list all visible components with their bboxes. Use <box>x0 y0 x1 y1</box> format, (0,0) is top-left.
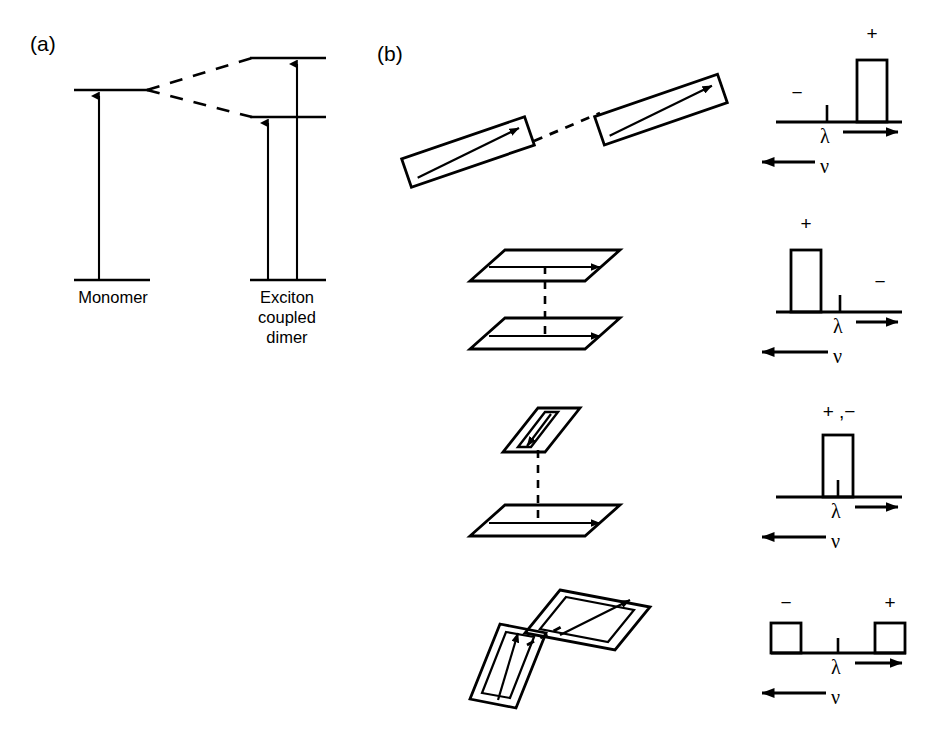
row-1-rod-upper <box>595 74 728 145</box>
row-2-positive-band <box>791 250 821 312</box>
row-4-geometry-skewed-rods <box>470 590 650 708</box>
row-1-spectrum <box>762 60 902 162</box>
figure-root: (a) (b) Monomer Exciton coupled dimer − … <box>0 0 947 737</box>
row-3-plane-lower <box>470 505 620 536</box>
row-1-rod-lower <box>402 117 535 188</box>
row-3-geometry-perpendicular-planes <box>470 408 620 536</box>
row-4-dipole-upper <box>560 600 630 635</box>
row-3-spectrum <box>762 435 902 537</box>
row-1-geometry-skewed-rods <box>402 74 728 187</box>
exciton-splitting-line-upper <box>147 58 252 90</box>
row-2-plane-upper <box>470 250 620 281</box>
row-4-spectrum <box>762 623 906 693</box>
figure-vector-layer <box>0 0 947 737</box>
row-4-rod-upper-inner <box>540 597 634 642</box>
row-2-geometry-parallel-planes <box>470 250 620 349</box>
row-4-positive-band <box>875 623 905 653</box>
exciton-splitting-line-lower <box>147 90 252 117</box>
panel-a-energy-diagram <box>74 58 326 280</box>
row-1-positive-band <box>857 60 887 122</box>
row-1-connector <box>534 113 600 141</box>
row-4-negative-band <box>771 623 801 653</box>
row-2-spectrum <box>762 250 902 352</box>
